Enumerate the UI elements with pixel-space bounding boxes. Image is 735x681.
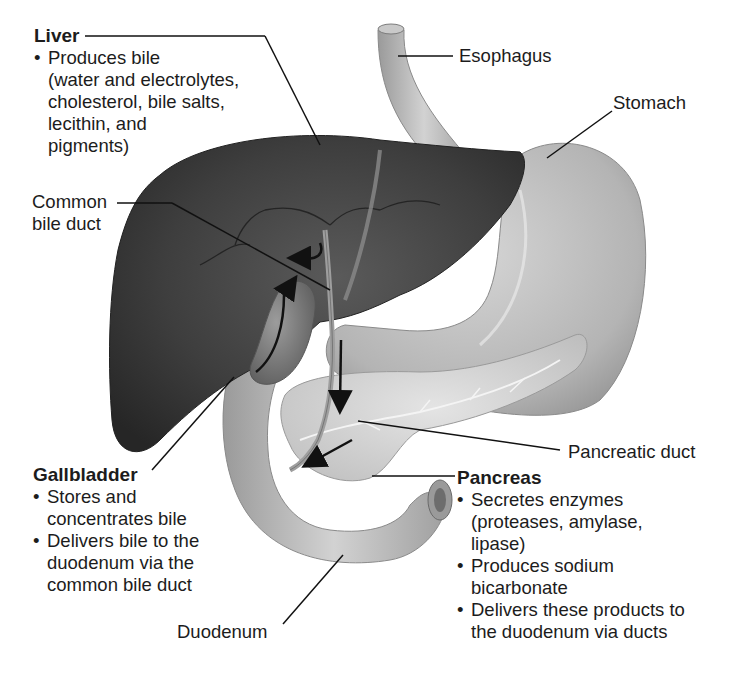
liver-bullets: Produces bile (water and electrolytes, c… xyxy=(34,47,239,157)
leader-duodenum xyxy=(283,555,343,624)
gallbladder-bullet-stores: Stores and concentrates bile xyxy=(33,486,199,530)
gallbladder-title: Gallbladder xyxy=(33,464,199,486)
common-bile-duct-label: Common bile duct xyxy=(32,191,107,235)
pancreas-title: Pancreas xyxy=(457,467,685,489)
gallbladder-label: Gallbladder Stores and concentrates bile… xyxy=(33,464,199,596)
gallbladder-bullets: Stores and concentrates bile Delivers bi… xyxy=(33,486,199,596)
gallbladder-bullet-delivers: Delivers bile to the duodenum via the co… xyxy=(33,530,199,596)
pancreas-bullet-bicarbonate: Produces sodium bicarbonate xyxy=(457,555,685,599)
pancreas-bullet-secretes: Secretes enzymes (proteases, amylase, li… xyxy=(457,489,685,555)
pancreatic-duct-label: Pancreatic duct xyxy=(568,441,696,463)
esophagus-label: Esophagus xyxy=(459,45,552,67)
stomach-label: Stomach xyxy=(613,92,686,114)
liver-bullet-produces-bile: Produces bile (water and electrolytes, c… xyxy=(34,47,239,157)
liver-label: Liver Produces bile (water and electroly… xyxy=(34,25,239,157)
duodenum-label: Duodenum xyxy=(177,621,268,643)
liver-title: Liver xyxy=(34,25,239,47)
pancreas-bullets: Secretes enzymes (proteases, amylase, li… xyxy=(457,489,685,643)
pancreas-label: Pancreas Secretes enzymes (proteases, am… xyxy=(457,467,685,643)
pancreas-bullet-delivers: Delivers these products to the duodenum … xyxy=(457,599,685,643)
